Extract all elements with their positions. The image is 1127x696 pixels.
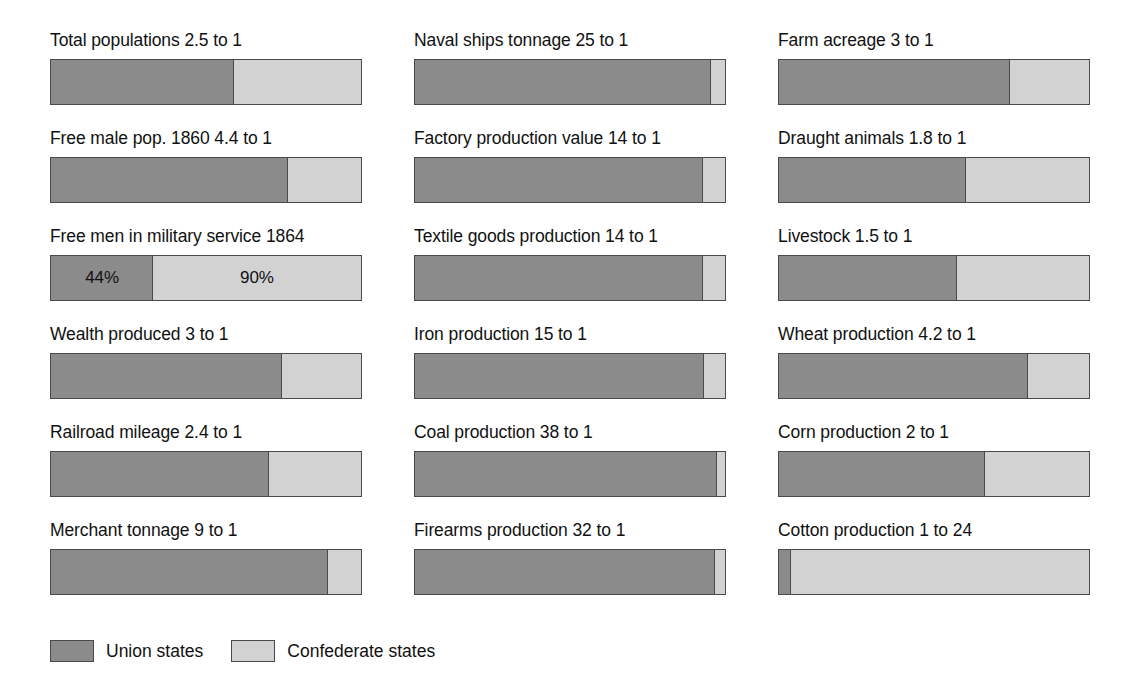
bar-label: Coal production 38 to 1 <box>414 422 726 444</box>
bar-label: Iron production 15 to 1 <box>414 324 726 346</box>
bar-label: Factory production value 14 to 1 <box>414 128 726 150</box>
bar-segment-union <box>415 550 716 594</box>
bar-item: Factory production value 14 to 1 <box>414 128 726 226</box>
bar-segment-confederate <box>1009 60 1088 104</box>
stacked-bar <box>414 157 726 203</box>
bar-item: Livestock 1.5 to 1 <box>778 226 1090 324</box>
bar-segment-union <box>415 354 705 398</box>
bar-segment-union <box>779 256 957 300</box>
stacked-bar <box>778 59 1090 105</box>
union-confederate-comparison-chart: Total populations 2.5 to 1Free male pop.… <box>0 0 1127 696</box>
stacked-bar <box>50 549 362 595</box>
bar-label: Cotton production 1 to 24 <box>778 520 1090 542</box>
bar-segment-confederate <box>956 256 1088 300</box>
bar-segment-confederate <box>984 452 1088 496</box>
bar-segment-confederate <box>1027 354 1087 398</box>
stacked-bar <box>414 59 726 105</box>
bar-segment-union <box>779 60 1010 104</box>
legend-swatch-union-icon <box>50 640 94 662</box>
stacked-bar <box>414 353 726 399</box>
bar-segment-confederate <box>965 158 1087 202</box>
bar-item: Free men in military service 186444%90% <box>50 226 362 324</box>
bar-item: Total populations 2.5 to 1 <box>50 30 362 128</box>
stacked-bar <box>50 353 362 399</box>
bar-label: Naval ships tonnage 25 to 1 <box>414 30 726 52</box>
bar-segment-union <box>51 550 328 594</box>
bar-label: Firearms production 32 to 1 <box>414 520 726 542</box>
bar-columns-container: Total populations 2.5 to 1Free male pop.… <box>50 30 1090 618</box>
bar-label: Railroad mileage 2.4 to 1 <box>50 422 362 444</box>
bar-segment-confederate <box>703 354 723 398</box>
stacked-bar <box>50 59 362 105</box>
bar-item: Draught animals 1.8 to 1 <box>778 128 1090 226</box>
bar-label: Farm acreage 3 to 1 <box>778 30 1090 52</box>
bar-segment-union <box>415 452 717 496</box>
bar-segment-confederate <box>790 550 1088 594</box>
bar-item: Iron production 15 to 1 <box>414 324 726 422</box>
bar-label: Draught animals 1.8 to 1 <box>778 128 1090 150</box>
bar-segment-union <box>415 158 703 202</box>
bar-item: Corn production 2 to 1 <box>778 422 1090 520</box>
bar-segment-confederate: 90% <box>152 256 360 300</box>
bar-item: Free male pop. 1860 4.4 to 1 <box>50 128 362 226</box>
bar-label: Free men in military service 1864 <box>50 226 362 248</box>
bar-item: Wealth produced 3 to 1 <box>50 324 362 422</box>
bar-segment-confederate <box>281 354 360 398</box>
stacked-bar <box>50 157 362 203</box>
bar-item: Textile goods production 14 to 1 <box>414 226 726 324</box>
bar-item: Naval ships tonnage 25 to 1 <box>414 30 726 128</box>
legend-item-union: Union states <box>50 640 203 662</box>
bar-segment-union <box>415 256 703 300</box>
bar-segment-confederate <box>710 60 724 104</box>
bar-label: Corn production 2 to 1 <box>778 422 1090 444</box>
stacked-bar <box>50 451 362 497</box>
bar-segment-confederate <box>702 158 724 202</box>
legend-swatch-conf-icon <box>231 640 275 662</box>
bar-column-2: Naval ships tonnage 25 to 1Factory produ… <box>414 30 726 618</box>
bar-item: Firearms production 32 to 1 <box>414 520 726 618</box>
stacked-bar <box>778 255 1090 301</box>
bar-segment-confederate <box>702 256 724 300</box>
bar-label: Free male pop. 1860 4.4 to 1 <box>50 128 362 150</box>
bar-item: Wheat production 4.2 to 1 <box>778 324 1090 422</box>
stacked-bar <box>778 549 1090 595</box>
stacked-bar <box>778 157 1090 203</box>
bar-segment-confederate <box>714 550 723 594</box>
bar-label: Textile goods production 14 to 1 <box>414 226 726 248</box>
bar-label: Total populations 2.5 to 1 <box>50 30 362 52</box>
bar-item: Railroad mileage 2.4 to 1 <box>50 422 362 520</box>
bar-segment-union <box>51 354 282 398</box>
bar-segment-confederate <box>327 550 360 594</box>
bar-segment-union <box>51 158 288 202</box>
bar-segment-union <box>51 60 234 104</box>
bar-item: Farm acreage 3 to 1 <box>778 30 1090 128</box>
bar-segment-confederate <box>233 60 360 104</box>
bar-segment-union <box>779 452 985 496</box>
bar-label: Wealth produced 3 to 1 <box>50 324 362 346</box>
bar-label: Livestock 1.5 to 1 <box>778 226 1090 248</box>
bar-item: Cotton production 1 to 24 <box>778 520 1090 618</box>
legend-label: Union states <box>106 641 203 662</box>
bar-item: Merchant tonnage 9 to 1 <box>50 520 362 618</box>
bar-segment-union <box>51 452 270 496</box>
bar-segment-union <box>779 158 967 202</box>
bar-label: Wheat production 4.2 to 1 <box>778 324 1090 346</box>
bar-item: Coal production 38 to 1 <box>414 422 726 520</box>
stacked-bar <box>778 451 1090 497</box>
bar-column-3: Farm acreage 3 to 1Draught animals 1.8 t… <box>778 30 1090 618</box>
stacked-bar <box>414 255 726 301</box>
bar-label: Merchant tonnage 9 to 1 <box>50 520 362 542</box>
legend-label: Confederate states <box>287 641 435 662</box>
stacked-bar <box>778 353 1090 399</box>
stacked-bar <box>414 549 726 595</box>
bar-segment-union <box>779 354 1029 398</box>
bar-column-1: Total populations 2.5 to 1Free male pop.… <box>50 30 362 618</box>
bar-segment-confederate <box>716 452 724 496</box>
bar-segment-union <box>415 60 711 104</box>
stacked-bar <box>414 451 726 497</box>
bar-segment-union: 44% <box>51 256 153 300</box>
legend-item-conf: Confederate states <box>231 640 435 662</box>
bar-segment-confederate <box>268 452 359 496</box>
bar-segment-confederate <box>287 158 360 202</box>
chart-legend: Union statesConfederate states <box>50 640 435 662</box>
